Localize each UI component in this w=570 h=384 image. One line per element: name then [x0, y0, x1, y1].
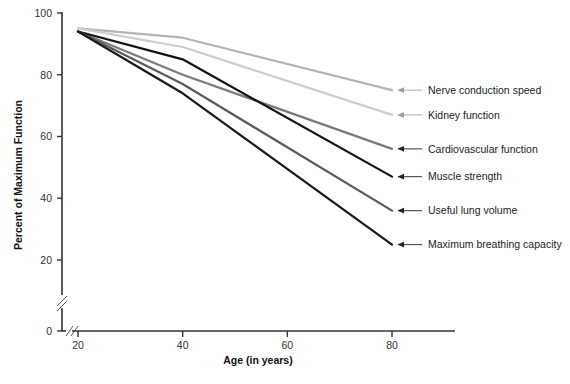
series-label: Nerve conduction speed	[428, 84, 541, 96]
y-tick-label: 0	[46, 325, 52, 337]
x-axis-title: Age (in years)	[223, 354, 292, 366]
chart-container: 020406080100 20406080 Nerve conduction s…	[0, 0, 570, 384]
y-tick-label: 100	[34, 7, 52, 19]
y-tick-label: 80	[40, 69, 52, 81]
series-label: Cardiovascular function	[428, 143, 538, 155]
x-tick-label: 80	[386, 339, 398, 351]
chart-background	[0, 0, 570, 384]
x-tick-label: 20	[72, 339, 84, 351]
y-tick-label: 40	[40, 192, 52, 204]
series-label: Kidney function	[428, 109, 500, 121]
y-tick-label: 60	[40, 130, 52, 142]
series-label: Muscle strength	[428, 170, 502, 182]
y-tick-label: 20	[40, 254, 52, 266]
x-tick-label: 60	[281, 339, 293, 351]
x-tick-label: 40	[177, 339, 189, 351]
series-label: Maximum breathing capacity	[428, 238, 562, 250]
y-axis-title: Percent of Maximum Function	[12, 100, 24, 250]
aging-function-line-chart: 020406080100 20406080 Nerve conduction s…	[0, 0, 570, 384]
series-label: Useful lung volume	[428, 204, 517, 216]
